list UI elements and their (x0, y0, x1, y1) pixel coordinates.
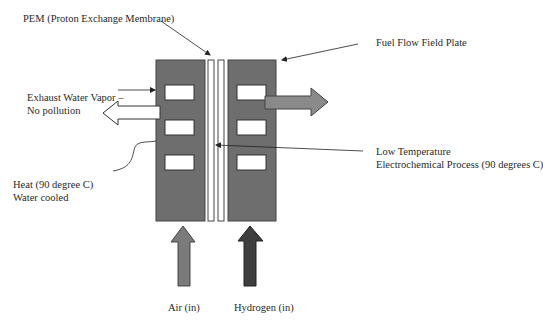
hydrogen-inlet-arrow-icon (238, 226, 263, 286)
exhaust-label-line2: No pollution (27, 104, 80, 117)
right-slot-1 (237, 85, 266, 100)
exhaust-label-line1: Exhaust Water Vapor – (27, 91, 123, 104)
right-flow-plate (228, 60, 276, 221)
pem-label: PEM (Proton Exchange Membrane) (23, 12, 174, 25)
pem-membrane (208, 60, 224, 221)
left-slot-3 (165, 155, 194, 170)
left-slot-2 (165, 120, 194, 135)
right-slot-3 (237, 155, 266, 170)
heat-label-line1: Heat (90 degree C) (13, 178, 93, 191)
air-inlet-arrow-icon (171, 226, 195, 286)
hydrogen-in-label: Hydrogen (in) (234, 301, 294, 314)
pem-pointer-line (161, 21, 210, 55)
left-slot-1 (165, 85, 194, 100)
heat-label-line2: Water cooled (13, 191, 68, 204)
exhaust-arrow-icon (103, 101, 160, 125)
air-in-label: Air (in) (168, 301, 200, 314)
right-slot-2 (237, 120, 266, 135)
left-flow-plate (156, 60, 205, 221)
fuel-plate-pointer-line (282, 44, 358, 60)
heat-pointer-curve (113, 141, 156, 171)
fuel-flow-plate-label: Fuel Flow Field Plate (376, 36, 467, 49)
low-temp-label-line2: Electrochemical Process (90 degrees C) (376, 158, 543, 171)
low-temp-label-line1: Low Temperature (376, 145, 451, 158)
